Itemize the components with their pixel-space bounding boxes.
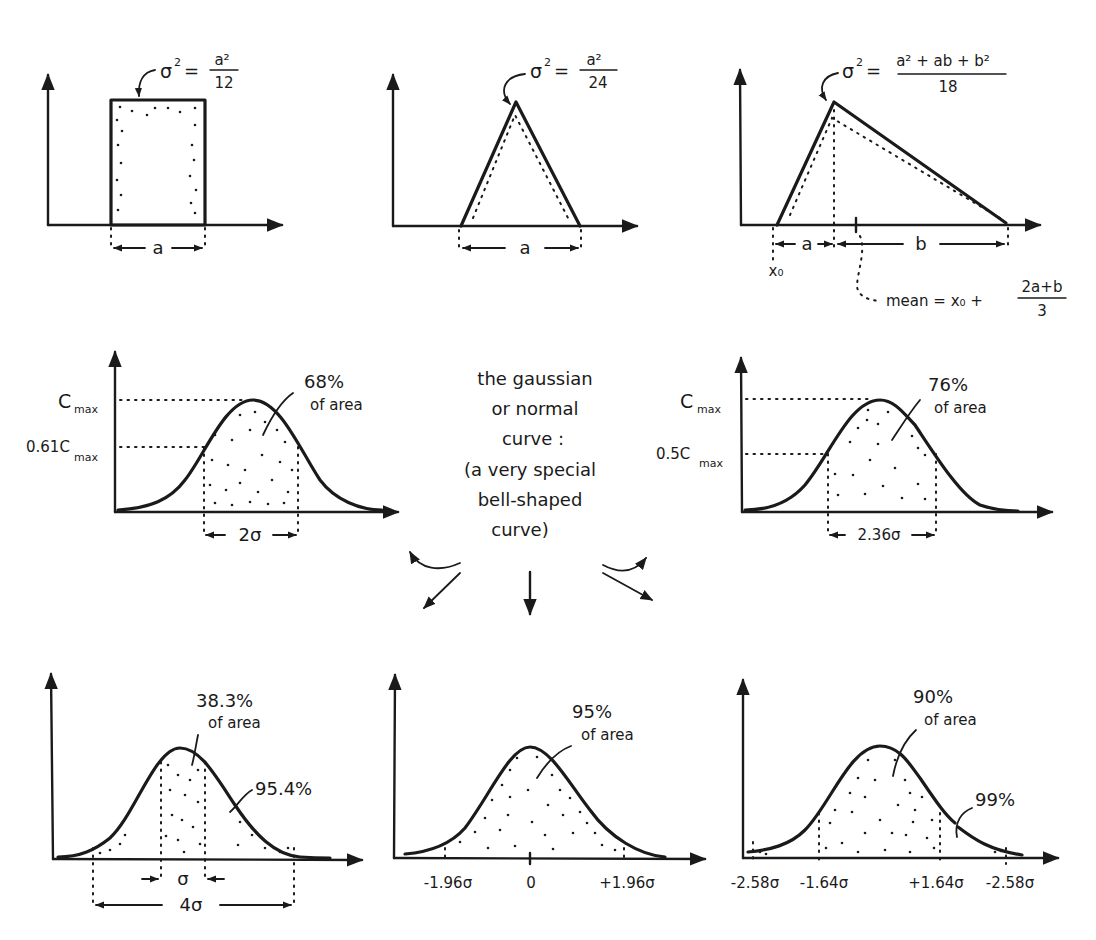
svg-text:3: 3 (1037, 302, 1047, 320)
width-label: 2σ (239, 524, 262, 545)
tick-label: +1.96σ (599, 874, 655, 892)
gaussian-68-panel: C max 0.61C max 68% of area 2σ (26, 352, 398, 545)
triangle-shape (461, 102, 580, 226)
area-percent: 76% (928, 374, 968, 395)
outer-percent: 99% (975, 789, 1015, 810)
width-label: a (519, 237, 530, 258)
svg-text:max: max (74, 451, 98, 464)
outer-width-label: 4σ (180, 894, 203, 915)
area-percent: 95% (572, 701, 612, 722)
svg-text:or normal: or normal (491, 398, 578, 419)
svg-text:2: 2 (174, 56, 181, 69)
tick-label: +1.64σ (908, 874, 964, 892)
ymax-label: C (58, 390, 71, 412)
svg-text:=: = (866, 60, 881, 81)
ylevel-label: 0.5C (656, 445, 690, 463)
svg-text:of area: of area (310, 396, 363, 414)
ylevel-label: 0.61C (26, 438, 70, 456)
triangle-shape (777, 102, 1006, 225)
gaussian-38-panel: 38.3% of area 95.4% σ 4σ (51, 674, 362, 915)
variance-denominator: 18 (938, 78, 957, 96)
y-axis (51, 674, 53, 859)
gaussian-curve (58, 748, 330, 858)
x-axis (394, 858, 705, 859)
variance-numerator: a² (586, 51, 601, 69)
width-label: a (152, 237, 163, 258)
gaussian-curve (118, 400, 382, 510)
svg-text:σ: σ (842, 60, 854, 82)
stipple-fill (759, 759, 1003, 856)
svg-text:2: 2 (856, 56, 863, 69)
tick-label: -2.58σ (731, 874, 780, 892)
leader-line (192, 735, 198, 765)
pointer-arrow (139, 70, 155, 96)
width-label: 2.36σ (858, 526, 901, 544)
pointer-arrow (822, 73, 838, 100)
left-width-label: a (801, 233, 812, 254)
inner-width-label: σ (177, 868, 188, 889)
variance-numerator: a² + ab + b² (896, 52, 990, 70)
svg-text:curve): curve) (491, 519, 548, 540)
svg-text:curve :: curve : (502, 428, 564, 449)
gaussian-90-panel: 90% of area 99% -2.58σ -1.64σ +1.64σ -2.… (731, 680, 1058, 892)
center-note: the gaussian or normal curve : (a very s… (410, 368, 652, 614)
area-percent: 38.3% (196, 690, 253, 711)
right-width-label: b (915, 233, 926, 254)
tick-label: 0 (526, 874, 536, 892)
variance-symbol: σ (160, 60, 172, 82)
stipple-fill (116, 106, 198, 215)
uniform-rectangle (111, 100, 205, 225)
mean-leader (857, 236, 880, 301)
tick-label: -1.64σ (800, 874, 849, 892)
tick-label: -2.58σ (986, 874, 1035, 892)
variance-denominator: 24 (588, 74, 607, 92)
y-axis (741, 358, 742, 512)
arrow-down-left (424, 573, 460, 608)
y-axis (740, 70, 741, 225)
asymmetric-triangle-panel: a b x₀ mean = x₀ + 2a+b 3 σ 2 = a² + ab … (740, 52, 1066, 320)
svg-text:(a very special: (a very special (464, 459, 596, 480)
gaussian-curve (405, 747, 665, 857)
gaussian-curve-tail (958, 827, 1022, 855)
outer-percent: 95.4% (255, 778, 312, 799)
svg-text:max: max (699, 457, 723, 470)
uniform-distribution-panel: a σ 2 = a² 12 (48, 51, 282, 258)
svg-text:the gaussian: the gaussian (477, 368, 592, 389)
symmetric-triangle-panel: a σ 2 = a² 24 (393, 51, 637, 258)
svg-text:=: = (184, 60, 199, 81)
pointer-arrow (504, 74, 525, 104)
variance-denominator: 12 (214, 74, 233, 92)
variance-numerator: a² (214, 51, 229, 69)
ymax-label: C (680, 390, 693, 412)
gaussian-76-panel: C max 0.5C max 76% of area 2.36σ (656, 358, 1052, 544)
origin-label: x₀ (769, 262, 784, 280)
arrow-up-left (410, 552, 460, 568)
svg-text:2: 2 (544, 56, 551, 69)
gaussian-curve (748, 746, 955, 852)
tick-label: -1.96σ (424, 874, 473, 892)
mean-formula: mean = x₀ + (886, 292, 983, 310)
gaussian-95-panel: 95% of area -1.96σ 0 +1.96σ (394, 675, 705, 892)
area-percent: 90% (913, 686, 953, 707)
svg-text:of area: of area (934, 399, 987, 417)
area-percent: 68% (304, 371, 344, 392)
svg-text:of area: of area (581, 726, 634, 744)
svg-text:max: max (74, 403, 98, 416)
svg-text:of area: of area (208, 714, 261, 732)
svg-text:σ: σ (530, 60, 542, 82)
svg-text:bell-shaped: bell-shaped (478, 489, 583, 510)
arrow-down-right (603, 573, 652, 600)
svg-text:=: = (554, 60, 569, 81)
svg-text:of area: of area (924, 711, 977, 729)
arrow-up-right (603, 558, 646, 570)
y-axis (394, 675, 395, 858)
svg-text:max: max (697, 403, 721, 416)
svg-text:2a+b: 2a+b (1022, 278, 1063, 296)
